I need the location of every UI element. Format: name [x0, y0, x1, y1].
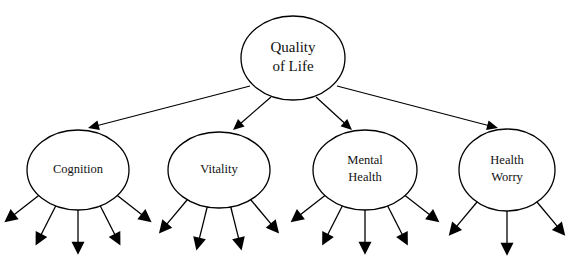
cognition-leaf-arrowhead-icon-1 [137, 209, 151, 222]
cognition-leaf-arrowhead-icon-5 [4, 209, 18, 222]
vitality-leaf-line-4 [165, 198, 189, 226]
vitality-leaf-arrowhead-icon-3 [193, 236, 206, 250]
node-quality-of-life[interactable]: Qualityof Life [241, 16, 345, 100]
mental-health-leaf-line-5 [298, 194, 327, 217]
health-worry-leaf-arrowhead-icon-1 [552, 222, 565, 236]
hierarchy-diagram: Qualityof LifeCognitionVitalityMentalHea… [0, 0, 569, 266]
edge-root-cognition [95, 86, 250, 126]
cognition-leaf-line-1 [115, 194, 144, 217]
cognition-leaf-line-2 [100, 205, 117, 238]
vitality-leaf-arrowhead-icon-2 [232, 236, 245, 250]
mental-health-leaf-line-1 [403, 194, 432, 217]
vitality-leaf-line-2 [230, 206, 239, 242]
node-vitality[interactable]: Vitality [168, 132, 270, 208]
cognition-leaf-arrowhead-icon-3 [72, 242, 85, 255]
mental-health-leaf-arrowhead-icon-5 [291, 209, 305, 222]
mental-health-leaf-arrowhead-icon-3 [359, 242, 372, 255]
vitality-leaf-line-3 [199, 206, 208, 242]
node-mental-health[interactable]: MentalHealth [313, 130, 417, 210]
cognition-leaf-line-4 [40, 205, 57, 238]
diagram-canvas: Qualityof LifeCognitionVitalityMentalHea… [0, 0, 569, 266]
edge-root-health-worry-arrowhead-icon [486, 120, 498, 130]
node-health-worry-label-line2: Worry [491, 170, 523, 184]
mental-health-leaf-line-2 [387, 205, 404, 238]
node-health-worry-label-line1: Health [490, 153, 524, 167]
health-worry-leaf-line-1 [536, 200, 560, 228]
health-worry-leaf-arrowhead-icon-3 [449, 222, 462, 236]
node-mental-health-label-line1: Mental [347, 153, 383, 167]
node-quality-of-life-label-line2: of Life [272, 58, 314, 74]
edge-root-cognition-arrowhead-icon [88, 120, 100, 130]
node-cognition[interactable]: Cognition [27, 130, 129, 210]
mental-health-leaf-line-4 [326, 205, 343, 238]
vitality-leaf-line-1 [249, 198, 273, 226]
edge-root-mental-health [316, 97, 347, 125]
node-vitality-label-line1: Vitality [200, 162, 238, 176]
edge-root-health-worry [337, 86, 491, 126]
tree-nodes-group: Qualityof LifeCognitionVitalityMentalHea… [27, 16, 555, 211]
node-health-worry[interactable]: HealthWorry [459, 129, 555, 211]
cognition-leaf-line-5 [11, 194, 40, 217]
vitality-leaf-arrowhead-icon-1 [266, 219, 279, 233]
vitality-leaf-arrowhead-icon-4 [159, 219, 172, 233]
node-quality-of-life-label-line1: Quality [271, 39, 316, 55]
edge-root-vitality [238, 97, 271, 125]
node-mental-health-label-line2: Health [348, 170, 382, 184]
node-cognition-label-line1: Cognition [53, 162, 104, 176]
health-worry-leaf-line-3 [455, 200, 479, 228]
health-worry-leaf-arrowhead-icon-2 [501, 243, 514, 256]
mental-health-leaf-arrowhead-icon-1 [425, 209, 439, 222]
